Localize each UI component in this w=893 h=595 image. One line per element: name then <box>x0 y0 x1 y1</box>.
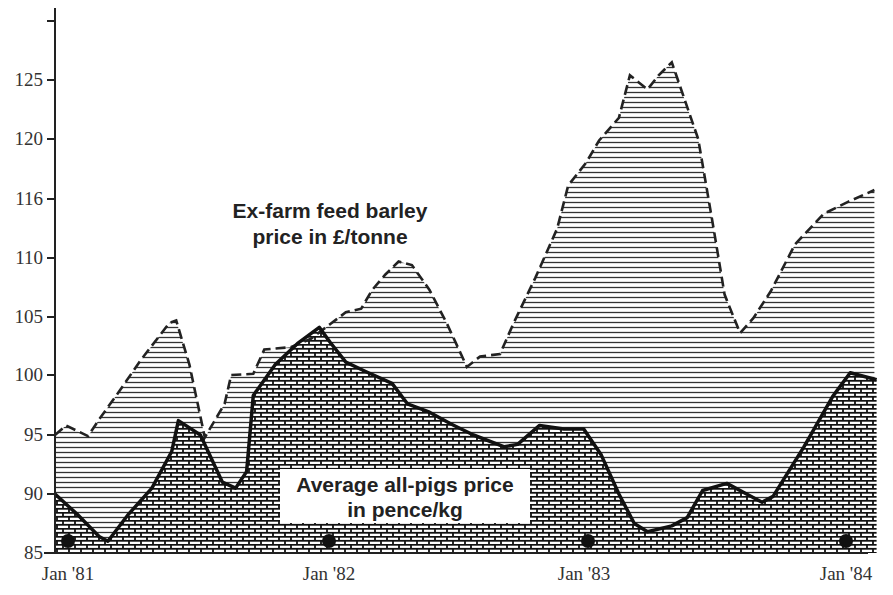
x-tick-label: Jan '84 <box>820 563 873 584</box>
pigs-annotation: Average all-pigs price in pence/kg <box>280 469 530 523</box>
x-tick-label: Jan '81 <box>42 563 95 584</box>
pigs-label-line2: in pence/kg <box>347 498 463 521</box>
y-tick-label: 95 <box>24 424 43 445</box>
y-tick-label: 85 <box>24 542 43 563</box>
chart: 85 90 95 100 105 110 116 120 125 Jan '81… <box>0 0 893 595</box>
y-tick-label: 100 <box>15 364 44 385</box>
year-marker-dot <box>839 534 853 548</box>
y-tick-label: 90 <box>24 483 43 504</box>
y-axis-labels: 85 90 95 100 105 110 116 120 125 <box>15 69 44 563</box>
y-tick-label: 110 <box>15 247 43 268</box>
year-marker-dot <box>61 534 75 548</box>
y-tick-label: 116 <box>15 188 43 209</box>
x-tick-label: Jan '83 <box>558 563 611 584</box>
y-tick-label: 120 <box>15 128 44 149</box>
barley-label-line2: price in £/tonne <box>252 225 407 248</box>
x-tick-label: Jan '82 <box>303 563 356 584</box>
y-axis-ticks <box>47 21 55 494</box>
pigs-label-line1: Average all-pigs price <box>296 473 513 496</box>
x-axis-labels: Jan '81 Jan '82 Jan '83 Jan '84 <box>42 563 873 584</box>
barley-annotation: Ex-farm feed barley price in £/tonne <box>233 199 428 248</box>
year-marker-dot <box>322 534 336 548</box>
barley-label-line1: Ex-farm feed barley <box>233 199 428 222</box>
year-marker-dot <box>581 534 595 548</box>
y-tick-label: 125 <box>15 69 44 90</box>
y-tick-label: 105 <box>15 306 44 327</box>
